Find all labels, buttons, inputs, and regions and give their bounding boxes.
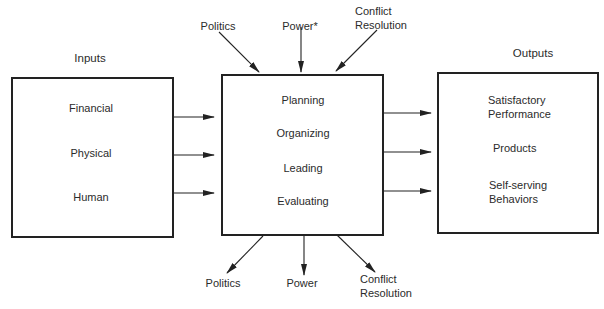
outputs-title: Outputs xyxy=(513,46,553,60)
arrow-bottom-politics xyxy=(227,236,263,273)
bottom-politics-label: Politics xyxy=(206,276,241,290)
process-leading: Leading xyxy=(283,161,322,175)
input-financial: Financial xyxy=(69,101,113,115)
bottom-power-label: Power xyxy=(286,276,317,290)
input-physical: Physical xyxy=(71,146,112,160)
process-planning: Planning xyxy=(282,93,325,107)
output-products: Products xyxy=(493,141,536,155)
output-performance-line1: Satisfactory xyxy=(488,93,551,107)
top-conflict-label: Conflict Resolution xyxy=(355,4,407,32)
bottom-conflict-line2: Resolution xyxy=(360,286,412,300)
top-conflict-line1: Conflict xyxy=(355,4,407,18)
output-performance: Satisfactory Performance xyxy=(488,93,551,121)
top-conflict-line2: Resolution xyxy=(355,18,407,32)
process-evaluating: Evaluating xyxy=(277,194,328,208)
process-organizing: Organizing xyxy=(276,126,329,140)
top-politics-label: Politics xyxy=(201,19,236,33)
bottom-conflict-label: Conflict Resolution xyxy=(360,272,412,300)
top-power-label: Power* xyxy=(282,19,317,33)
output-behaviors: Self-serving Behaviors xyxy=(489,178,547,206)
systems-diagram: Inputs Outputs Financial Physical Human … xyxy=(0,0,604,309)
arrow-bottom-conflict xyxy=(337,235,375,272)
arrow-top-politics xyxy=(219,32,259,72)
inputs-title: Inputs xyxy=(74,51,105,65)
input-human: Human xyxy=(73,190,108,204)
output-behaviors-line1: Self-serving xyxy=(489,178,547,192)
output-behaviors-line2: Behaviors xyxy=(489,192,547,206)
arrow-top-conflict xyxy=(336,30,377,71)
bottom-conflict-line1: Conflict xyxy=(360,272,412,286)
output-performance-line2: Performance xyxy=(488,107,551,121)
